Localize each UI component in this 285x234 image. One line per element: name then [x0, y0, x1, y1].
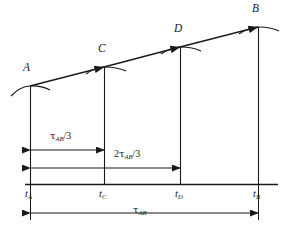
dim-subscript-2: AB [125, 153, 133, 160]
tick-subscript-tC: C [102, 193, 106, 200]
dim-tau-2: τ [119, 148, 125, 159]
diagram-canvas [0, 0, 285, 234]
point-label-D: D [174, 23, 182, 35]
point-label-B: B [252, 3, 259, 15]
dimension-label-tau-total: τAB [133, 205, 146, 215]
point-label-C: C [98, 43, 106, 55]
dim-suffix-1: /3 [63, 130, 71, 141]
figure-container: A C D B tA tC tD tB τAB/3 2τAB/3 τAB [0, 0, 285, 234]
tick-label-tD: tD [175, 189, 183, 200]
tick-subscript-tB: B [256, 193, 260, 200]
curve-arc-C [86, 67, 126, 74]
dimension-label-tau-third: τAB/3 [50, 131, 71, 141]
tick-subscript-tA: A [28, 193, 32, 200]
dim-subscript-3: AB [139, 209, 147, 216]
tick-label-tA: tA [25, 189, 32, 200]
dim-tau-1: τ [50, 130, 56, 141]
dim-suffix-2: /3 [132, 148, 140, 159]
dim-subscript-1: AB [56, 135, 64, 142]
dim-tau-3: τ [133, 204, 139, 215]
dimension-label-two-tau-thirds: 2τAB/3 [114, 149, 140, 159]
tick-label-tC: tC [99, 189, 106, 200]
tick-label-tB: tB [253, 189, 260, 200]
point-label-A: A [23, 62, 30, 74]
tick-subscript-tD: D [178, 193, 183, 200]
